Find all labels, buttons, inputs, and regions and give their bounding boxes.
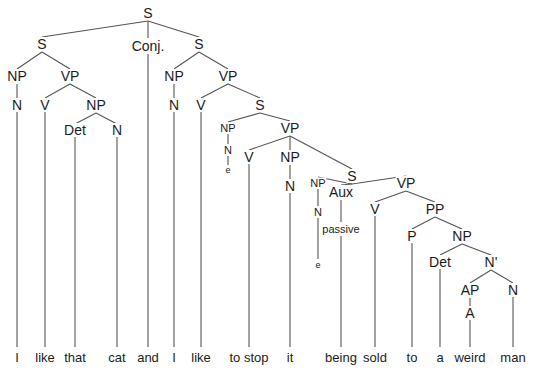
tree-node-s: S xyxy=(142,6,153,20)
tree-node-ap: AP xyxy=(460,283,481,297)
tree-node-np: NP xyxy=(451,229,472,243)
terminal-word: and xyxy=(137,351,159,364)
terminal-word: like xyxy=(35,351,55,364)
tree-branch xyxy=(148,21,199,37)
tree-node-np: NP xyxy=(163,69,184,83)
tree-node-s: S xyxy=(346,169,357,183)
tree-node-n: N xyxy=(284,179,296,193)
tree-node-n: N xyxy=(507,283,519,297)
tree-node-np: NP xyxy=(6,69,27,83)
tree-node-pp: PP xyxy=(425,202,446,216)
tree-node-n: N xyxy=(111,123,123,137)
tree-node-det: Det xyxy=(63,123,87,137)
tree-node-vp: VP xyxy=(280,121,301,135)
tree-node-e: e xyxy=(224,166,231,175)
tree-node-np: NP xyxy=(279,150,300,164)
tree-node-vp: VP xyxy=(218,69,239,83)
tree-node-det: Det xyxy=(428,255,452,269)
tree-node-a: A xyxy=(464,306,475,320)
tree-node-v: V xyxy=(243,150,254,164)
syntax-tree-diagram: SSConj.SNPVPNVNPDetNNPVPNVSNPNeVPVNPNSNP… xyxy=(0,0,542,371)
tree-node-v: V xyxy=(39,98,50,112)
tree-node-n: N xyxy=(223,145,233,156)
tree-node-n: N' xyxy=(484,255,499,269)
terminal-word: I xyxy=(172,351,176,364)
tree-branch xyxy=(42,52,70,69)
tree-node-e: e xyxy=(314,261,321,270)
tree-node-s: S xyxy=(254,98,265,112)
tree-node-conj: Conj. xyxy=(131,39,166,53)
terminal-word: weird xyxy=(454,351,485,364)
tree-edges-layer xyxy=(0,0,542,371)
terminal-word: to stop xyxy=(229,351,268,364)
tree-node-s: S xyxy=(36,37,47,51)
tree-branch xyxy=(375,191,406,202)
tree-node-v: V xyxy=(195,98,206,112)
tree-branch xyxy=(42,21,148,37)
tree-node-v: V xyxy=(369,202,380,216)
tree-branch xyxy=(17,52,42,69)
tree-branch xyxy=(199,52,228,69)
tree-branch xyxy=(45,84,70,98)
terminal-word: cat xyxy=(108,351,125,364)
tree-node-np: NP xyxy=(219,123,236,134)
terminal-word: a xyxy=(436,351,443,364)
tree-node-p: P xyxy=(406,229,417,243)
tree-branch xyxy=(201,84,228,98)
tree-branch xyxy=(249,136,290,150)
terminal-word: like xyxy=(191,351,211,364)
tree-branch xyxy=(228,84,260,98)
tree-node-passive: passive xyxy=(321,224,360,235)
terminal-word: being xyxy=(325,351,357,364)
tree-node-n: N xyxy=(11,98,23,112)
terminal-word: to xyxy=(407,351,418,364)
tree-node-aux: Aux xyxy=(328,185,354,199)
terminal-word: sold xyxy=(363,351,387,364)
terminal-word: man xyxy=(500,351,525,364)
tree-node-n: N xyxy=(168,98,180,112)
terminal-word: it xyxy=(287,351,294,364)
tree-node-np: NP xyxy=(309,178,326,189)
tree-node-np: NP xyxy=(85,98,106,112)
tree-node-s: S xyxy=(193,37,204,51)
terminal-word: I xyxy=(15,351,19,364)
tree-node-vp: VP xyxy=(60,69,81,83)
tree-branch xyxy=(174,52,199,69)
tree-branch xyxy=(70,84,96,98)
terminal-word: that xyxy=(64,351,86,364)
tree-node-vp: VP xyxy=(396,176,417,190)
tree-node-n: N xyxy=(313,207,323,218)
